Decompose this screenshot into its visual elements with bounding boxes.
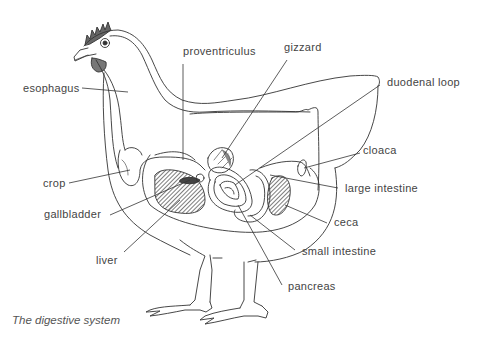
right-leg bbox=[240, 262, 262, 308]
ceca bbox=[268, 176, 291, 215]
leader-ceca bbox=[285, 205, 327, 223]
label-duodenal-loop: duodenal loop bbox=[387, 77, 460, 88]
label-gallbladder: gallbladder bbox=[44, 209, 101, 220]
label-crop: crop bbox=[43, 178, 66, 189]
large-intestine bbox=[260, 161, 310, 176]
label-liver: liver bbox=[96, 255, 118, 266]
label-esophagus: esophagus bbox=[23, 83, 80, 94]
head-neck-outline bbox=[84, 30, 380, 103]
label-small-intestine: small intestine bbox=[302, 246, 376, 257]
leader-pancreas bbox=[238, 205, 282, 285]
label-large-intestine: large intestine bbox=[345, 183, 418, 194]
leader-liver bbox=[124, 200, 180, 252]
liver bbox=[155, 170, 205, 214]
label-ceca: ceca bbox=[334, 217, 358, 228]
figure-caption: The digestive system bbox=[12, 315, 120, 327]
leader-esophagus bbox=[82, 88, 128, 92]
label-gizzard: gizzard bbox=[284, 42, 322, 53]
comb bbox=[85, 22, 111, 45]
label-cloaca: cloaca bbox=[363, 145, 397, 156]
leader-cloaca bbox=[304, 153, 360, 168]
breast-outline bbox=[103, 73, 190, 255]
leader-gizzard bbox=[222, 60, 287, 158]
left-leg bbox=[180, 240, 212, 305]
label-pancreas: pancreas bbox=[288, 281, 336, 292]
label-proventriculus: proventriculus bbox=[183, 46, 256, 57]
